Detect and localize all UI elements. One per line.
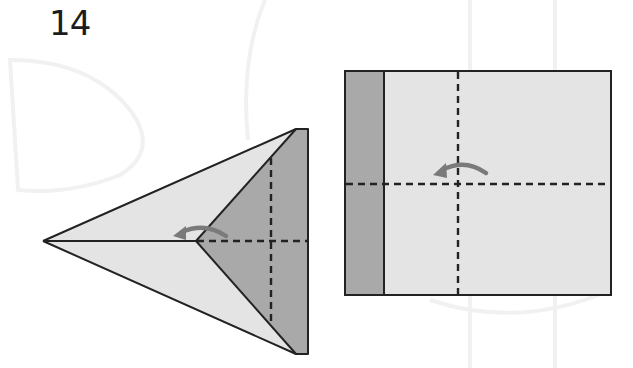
square-diagram <box>345 71 611 295</box>
folded-plane-diagram <box>43 129 308 354</box>
diagram-canvas <box>0 0 633 368</box>
step-number: 14 <box>49 3 90 43</box>
